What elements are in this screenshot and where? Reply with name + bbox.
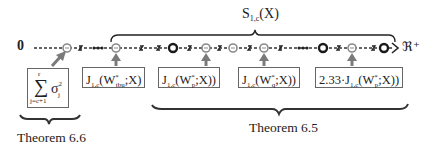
top-brace	[111, 30, 395, 42]
w-symbol: (W	[358, 73, 374, 87]
j-tbu-box: J1,c(W*tbu;X)	[82, 67, 145, 88]
arrow-tbu-icon	[111, 53, 121, 66]
w-symbol: (W	[255, 73, 271, 87]
sum-sigma-box: r ∑ σ2j j=c+1	[27, 68, 69, 108]
j-rest: ;X)	[125, 73, 142, 87]
marker-dark	[380, 44, 388, 52]
j-rest: ;X))	[378, 73, 399, 87]
w-star: *	[115, 73, 119, 81]
theorem-6-6-label: Theorem 6.6	[17, 130, 86, 146]
arrow-p-icon	[201, 53, 211, 66]
ellipsis-dots-right	[298, 47, 309, 50]
s-argument: (X)	[259, 6, 278, 21]
arrow-scaled-icon	[347, 53, 357, 66]
axis-origin-label: 0	[17, 38, 24, 54]
marker-dark	[319, 44, 327, 52]
sum-symbol: ∑	[34, 75, 48, 98]
sigma-term: σ2j	[51, 80, 60, 99]
marker-dark	[169, 44, 177, 52]
sigma-sub: j	[58, 91, 60, 99]
sigma-sup: 2	[59, 80, 63, 88]
brace-theorem-6-6	[20, 115, 80, 124]
s-symbol: S	[242, 6, 250, 21]
j-q-box: J1,c(W*q;X))	[238, 67, 300, 88]
j-subscript: 1,c	[167, 81, 175, 89]
arrow-sum-icon	[52, 51, 66, 66]
j-rest: ;X))	[275, 73, 296, 87]
coefficient: 2.33·	[319, 73, 345, 87]
axis-end-label: ℜ⁺	[402, 39, 420, 55]
w-symbol: (W	[99, 73, 115, 87]
j-p-box: J1,c(W*p;X))	[158, 67, 220, 88]
brace-theorem-6-5	[152, 104, 408, 114]
j-subscript: 1,c	[247, 81, 255, 89]
ellipsis-dots-left	[93, 47, 104, 50]
top-brace-label: S1,c(X)	[242, 6, 279, 23]
theorem-6-5-label: Theorem 6.5	[249, 120, 318, 136]
j-scaled-box: 2.33·J1,c(W*p;X))	[315, 67, 403, 88]
w-symbol: (W	[175, 73, 191, 87]
j-rest: ;X))	[195, 73, 216, 87]
w-subscript: tbu	[116, 81, 125, 89]
s-subscript: 1,c	[250, 14, 260, 23]
arrow-q-icon	[259, 53, 269, 66]
sum-lower-limit: j=c+1	[30, 97, 46, 105]
j-subscript: 1,c	[91, 81, 99, 89]
axis-arrowhead	[392, 43, 398, 53]
